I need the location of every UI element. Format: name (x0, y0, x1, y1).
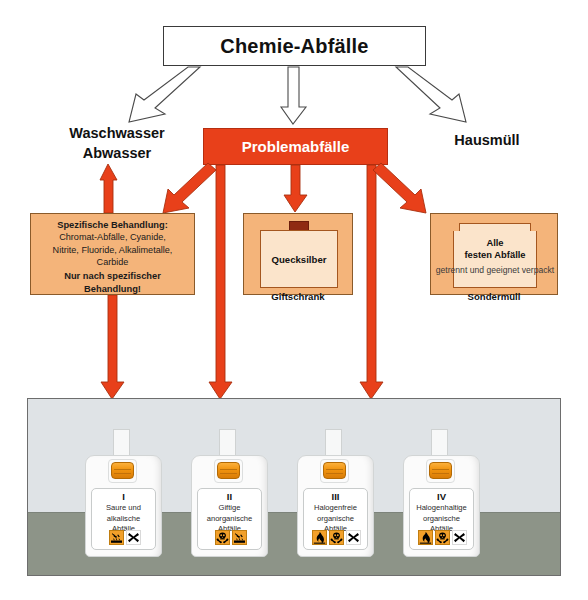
page-title: Chemie-Abfälle (220, 35, 368, 58)
canister-label: IV Halogenhaltige organische Abfälle (409, 488, 474, 550)
specific-treatment-box: Spezifische Behandlung: Chromat-Abfälle,… (30, 213, 195, 295)
sondermuell-box: Alle festen Abfälle getrennt und geeigne… (430, 213, 558, 295)
sondermuell-subtitle: getrennt und geeignet verpackt (431, 265, 559, 275)
specific-treatment-heading: Spezifische Behandlung: (35, 219, 190, 231)
toxic-skull-icon (215, 530, 230, 545)
canister-text-line-1: Saure und (92, 503, 155, 512)
canister-text-line-2: alkalische (92, 514, 155, 523)
problemabfaelle-label: Problemabfälle (242, 138, 350, 155)
specific-treatment-footer-line-2: Behandlung! (35, 283, 190, 295)
caption-giftschrank: Giftschrank (243, 291, 353, 302)
waste-disposal-diagram: Chemie-Abfälle Waschwasser Abwasser Haus… (0, 0, 588, 600)
harmful-x-icon (346, 530, 361, 545)
hollow-arrow-right (396, 67, 466, 122)
canister-label: I Saure und alkalische Abfälle (91, 488, 156, 550)
canister-text-line-2: organische (410, 514, 473, 523)
caption-sondermuell: Sondermüll (430, 291, 558, 302)
toxic-skull-icon (329, 530, 344, 545)
label-waschwasser-abwasser: Waschwasser Abwasser (52, 124, 182, 163)
canister-label: III Halogenfreie organische Abfälle (303, 488, 368, 550)
pictogram-row (92, 530, 157, 545)
canister-roman-numeral: IV (410, 492, 473, 502)
canister-cap-icon (111, 462, 134, 479)
flammable-icon (312, 530, 327, 545)
specific-treatment-footer-line-1: Nur nach spezifischer (35, 270, 190, 282)
specific-treatment-items-line-3: Carbide (35, 257, 190, 269)
giftschrank-box: Quecksilber (243, 213, 353, 295)
red-arrow-to-giftschrank (284, 165, 307, 212)
canister-text-line-2: anorganische (198, 514, 261, 523)
harmful-x-icon (452, 530, 467, 545)
canister-1: I Saure und alkalische Abfälle (85, 429, 162, 557)
canister-text-line-1: Halogenhaltige (410, 503, 473, 512)
canister-roman-numeral: II (198, 492, 261, 502)
canister-3: III Halogenfreie organische Abfälle (297, 429, 374, 557)
harmful-x-icon (126, 530, 141, 545)
canister-cap-icon (429, 462, 452, 479)
canister-cap-icon (217, 462, 240, 479)
page-title-box: Chemie-Abfälle (163, 26, 426, 66)
hollow-arrow-left (129, 67, 200, 122)
pictogram-row (410, 530, 475, 545)
red-arrow-to-canister-3 (360, 165, 383, 399)
pictogram-row (304, 530, 369, 545)
hollow-arrow-center (281, 67, 306, 124)
canister-label: II Giftige anorganische Abfälle (197, 488, 262, 550)
canister-roman-numeral: I (92, 492, 155, 502)
red-arrow-to-canister-1 (209, 165, 232, 399)
specific-treatment-items-line-1: Chromat-Abfälle, Cyanide, (35, 232, 190, 244)
corrosive-icon (109, 530, 124, 545)
pictogram-row (198, 530, 263, 545)
canister-scene-panel: I Saure und alkalische Abfälle (27, 398, 561, 576)
red-arrow-to-sondermuell (373, 163, 426, 213)
label-waschwasser: Waschwasser (52, 124, 182, 144)
canister-cap-icon (323, 462, 346, 479)
canister-4: IV Halogenhaltige organische Abfälle (403, 429, 480, 557)
canister-text-line-1: Giftige (198, 503, 261, 512)
label-abwasser: Abwasser (52, 144, 182, 164)
sondermuell-text-group: Alle festen Abfälle getrennt und geeigne… (431, 237, 559, 275)
red-arrow-to-specific (163, 163, 216, 213)
red-arrow-specific-down (101, 295, 124, 399)
red-arrow-up-waschwasser (100, 164, 117, 213)
sondermuell-title-line-2: festen Abfälle (431, 249, 559, 261)
corrosive-icon (232, 530, 247, 545)
cabinet-icon: Quecksilber (260, 230, 338, 288)
problemabfaelle-box: Problemabfälle (203, 128, 388, 165)
canister-2: II Giftige anorganische Abfälle (191, 429, 268, 557)
specific-treatment-items-line-2: Nitrite, Fluoride, Alkalimetalle, (35, 245, 190, 257)
canister-text-line-2: organische (304, 514, 367, 523)
canister-text-line-1: Halogenfreie (304, 503, 367, 512)
toxic-skull-icon (435, 530, 450, 545)
label-hausmuell: Hausmüll (432, 131, 542, 151)
quecksilber-label: Quecksilber (272, 254, 327, 265)
canister-roman-numeral: III (304, 492, 367, 502)
sondermuell-title-line-1: Alle (431, 237, 559, 249)
flammable-icon (418, 530, 433, 545)
